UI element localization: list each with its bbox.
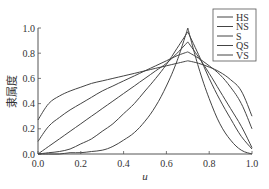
x-axis-label: u (142, 170, 148, 182)
y-tick-label: 0.6 (23, 73, 36, 84)
x-tick-label: 0.4 (117, 158, 130, 169)
x-tick-label: 0.6 (160, 158, 173, 169)
y-tick-label: 0.8 (23, 48, 36, 59)
legend-label-vs: VS (236, 50, 249, 61)
y-tick-label: 0.4 (23, 98, 36, 109)
y-tick-label: 0.0 (23, 149, 36, 160)
series-line-qs (38, 52, 252, 141)
x-tick-label: 0.8 (203, 158, 216, 169)
x-tick-label: 1.0 (246, 158, 259, 169)
chart: 0.00.20.40.60.81.0 0.00.20.40.60.81.0 u … (0, 0, 269, 189)
y-tick-label: 1.0 (23, 23, 36, 34)
y-tick-label: 0.2 (23, 123, 36, 134)
y-axis-label: 隶属度 (5, 75, 18, 108)
legend: HSNSSQSVS (213, 9, 256, 61)
x-tick-label: 0.2 (75, 158, 88, 169)
x-tick-label: 0.0 (32, 158, 45, 169)
